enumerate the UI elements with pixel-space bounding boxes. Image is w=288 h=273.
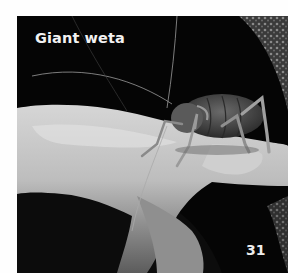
page-title: Giant weta bbox=[35, 30, 125, 46]
weta-photo bbox=[17, 16, 288, 273]
page-number: 31 bbox=[246, 242, 265, 258]
book-page: Giant weta 31 bbox=[0, 0, 288, 273]
weta-photo-illustration bbox=[17, 16, 288, 273]
